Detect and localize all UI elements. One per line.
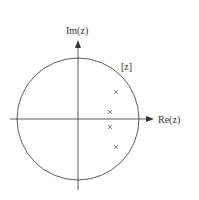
z-plane-diagram: Im(z) Re(z) [z]: [0, 0, 199, 200]
pole-marker: [114, 145, 118, 149]
pole-marker: [108, 125, 112, 129]
real-axis-arrow-icon: [146, 116, 154, 122]
imag-axis-label: Im(z): [66, 25, 88, 37]
plane-label: [z]: [121, 61, 132, 72]
real-axis-label: Re(z): [158, 114, 180, 126]
pole-marker: [108, 110, 112, 114]
imag-axis-arrow-icon: [75, 40, 81, 48]
pole-marker: [114, 90, 118, 94]
